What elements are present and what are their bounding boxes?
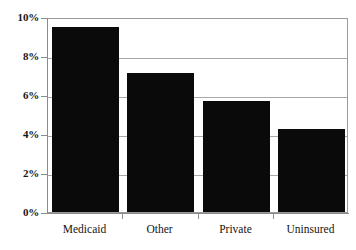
x-axis-tick [273, 214, 274, 219]
bars-layer [48, 19, 347, 212]
y-axis-tick-label: 2% [0, 168, 39, 179]
y-axis-tick-label: 4% [0, 129, 39, 140]
y-axis-tick [41, 18, 47, 19]
y-axis-tick-label-text: 6% [3, 90, 39, 101]
bar [52, 27, 119, 212]
y-axis-tick-label-text: 10% [3, 12, 39, 23]
x-axis-category-label: Other [122, 222, 197, 236]
x-axis-tick [198, 214, 199, 219]
y-axis-tick-label-text: 4% [3, 129, 39, 140]
bar [278, 129, 345, 212]
y-axis-tick [41, 135, 47, 136]
x-axis-tick [122, 214, 123, 219]
bar [203, 101, 270, 212]
y-axis-tick-label-text: 8% [3, 51, 39, 62]
y-axis-tick-label: 10% [0, 12, 39, 23]
bar [127, 73, 194, 212]
x-axis-category-label: Private [198, 222, 273, 236]
y-axis-line [47, 18, 48, 214]
plot-area [47, 18, 348, 213]
y-axis-tick [41, 96, 47, 97]
x-axis-category-label: Medicaid [47, 222, 122, 236]
y-axis-tick [41, 174, 47, 175]
bar-chart: 0%2%4%6%8%10% MedicaidOtherPrivateUninsu… [0, 0, 356, 250]
y-axis-tick-label-text: 2% [3, 168, 39, 179]
y-axis-tick-label: 8% [0, 51, 39, 62]
y-axis-tick-label: 6% [0, 90, 39, 101]
x-axis-category-label: Uninsured [273, 222, 348, 236]
y-axis-tick-label-text: 0% [3, 207, 39, 218]
y-axis-tick [41, 57, 47, 58]
y-axis-tick-label: 0% [0, 207, 39, 218]
